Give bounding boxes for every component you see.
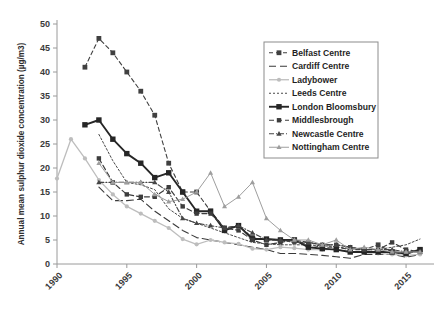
data-point-marker <box>139 212 143 216</box>
y-tick-label: 10 <box>40 211 50 221</box>
x-tick-label: 2015 <box>392 270 413 291</box>
data-point-marker <box>362 245 367 249</box>
data-point-marker <box>111 192 115 196</box>
data-point-marker <box>208 211 212 215</box>
legend-box <box>264 42 378 158</box>
data-point-marker <box>69 137 73 141</box>
data-point-marker <box>138 89 143 94</box>
series-line <box>99 187 420 258</box>
data-point-marker <box>277 78 281 82</box>
y-tick-label: 0 <box>45 259 50 269</box>
data-point-marker <box>83 65 88 70</box>
y-tick-label: 40 <box>40 67 50 77</box>
data-point-marker <box>180 216 185 221</box>
data-point-marker <box>264 243 268 247</box>
data-point-marker <box>96 117 101 122</box>
y-tick-label: 20 <box>40 163 50 173</box>
y-tick-label: 45 <box>40 43 50 53</box>
data-point-marker <box>390 240 394 244</box>
line-chart: Annual mean sulphur dioxide concentratio… <box>0 0 444 310</box>
data-point-marker <box>166 170 171 175</box>
data-point-marker <box>152 113 157 118</box>
data-point-marker <box>124 151 129 156</box>
data-point-marker <box>125 204 129 208</box>
y-tick-label: 30 <box>40 115 50 125</box>
data-point-marker <box>97 156 101 160</box>
chart-container: Annual mean sulphur dioxide concentratio… <box>0 0 444 310</box>
data-point-marker <box>83 156 87 160</box>
legend-label: Nottingham Centre <box>292 142 370 152</box>
data-point-marker <box>153 219 157 223</box>
data-point-marker <box>166 161 171 166</box>
data-point-marker <box>376 242 381 247</box>
data-point-marker <box>181 237 185 241</box>
data-point-marker <box>82 122 87 127</box>
x-tick-label: 2000 <box>183 270 204 291</box>
data-point-marker <box>138 161 143 166</box>
x-tick-label: 2005 <box>253 270 274 291</box>
data-point-marker <box>334 247 339 252</box>
data-point-marker <box>195 242 199 246</box>
data-point-marker <box>334 237 339 241</box>
data-point-marker <box>264 216 269 220</box>
data-point-marker <box>167 226 171 230</box>
x-axis-ticks: 199019952000200520102015 <box>43 264 413 292</box>
legend-label: Cardiff Centre <box>292 61 350 71</box>
chart-legend: Belfast CentreCardiff CentreLadybowerLee… <box>264 42 378 158</box>
y-tick-label: 35 <box>40 91 50 101</box>
y-tick-label: 50 <box>40 19 50 29</box>
data-point-marker <box>194 211 198 215</box>
y-tick-label: 15 <box>40 187 50 197</box>
y-tick-label: 5 <box>45 235 50 245</box>
legend-label: Middlesbrough <box>292 115 354 125</box>
data-point-marker <box>277 118 281 122</box>
data-point-marker <box>139 195 143 199</box>
data-point-marker <box>236 228 240 232</box>
data-point-marker <box>180 189 185 194</box>
data-point-marker <box>277 50 282 55</box>
legend-label: Belfast Centre <box>292 48 350 58</box>
legend-label: London Bloomsbury <box>292 102 376 112</box>
data-point-marker <box>96 36 101 41</box>
y-axis-title: Annual mean sulphur dioxide concentratio… <box>17 42 26 245</box>
data-point-marker <box>208 170 213 174</box>
data-point-marker <box>250 247 254 251</box>
data-point-marker <box>152 175 157 180</box>
data-point-marker <box>222 240 226 244</box>
x-tick-label: 2010 <box>322 270 343 291</box>
data-point-marker <box>276 104 281 109</box>
legend-label: Newcastle Centre <box>292 129 364 139</box>
data-point-marker <box>166 189 171 194</box>
data-point-marker <box>222 204 227 208</box>
y-tick-label: 25 <box>40 139 50 149</box>
data-point-marker <box>278 245 282 249</box>
data-point-marker <box>125 192 129 196</box>
data-point-marker <box>292 246 296 250</box>
x-tick-label: 1990 <box>43 270 64 291</box>
legend-label: Ladybower <box>292 75 338 85</box>
data-point-marker <box>250 180 255 184</box>
data-point-marker <box>110 50 115 55</box>
data-point-marker <box>110 137 115 142</box>
y-axis-ticks: 05101520253035404550 <box>40 19 57 269</box>
data-point-marker <box>208 238 212 242</box>
y-axis-title-group: Annual mean sulphur dioxide concentratio… <box>17 42 26 245</box>
data-point-marker <box>124 70 129 75</box>
data-point-marker <box>180 204 184 208</box>
legend-label: Leeds Centre <box>292 88 347 98</box>
data-point-marker <box>264 248 268 252</box>
x-tick-label: 1995 <box>113 270 134 291</box>
data-point-marker <box>306 245 311 250</box>
data-point-marker <box>55 176 59 180</box>
series-cardiff-centre <box>99 187 420 258</box>
data-point-marker <box>167 185 171 189</box>
data-point-marker <box>236 242 240 246</box>
data-point-marker <box>250 238 254 242</box>
